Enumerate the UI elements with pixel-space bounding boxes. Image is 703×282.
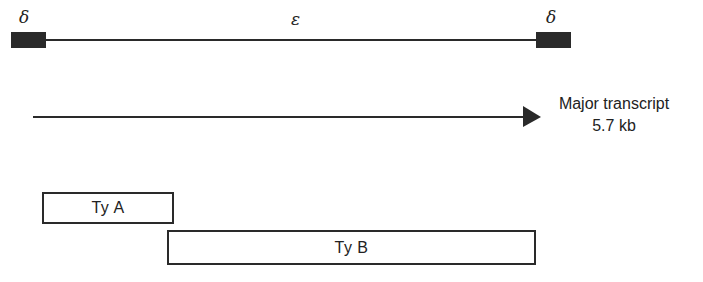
transcript-label: Major transcript 5.7 kb <box>548 93 680 137</box>
orf-ty-a: Ty A <box>42 192 174 224</box>
orf-ty-a-label: Ty A <box>91 199 124 217</box>
transcript-label-name: Major transcript <box>548 93 680 115</box>
orf-ty-b-label: Ty B <box>334 239 368 257</box>
orf-ty-b: Ty B <box>167 230 536 265</box>
transcript-label-size: 5.7 kb <box>548 115 680 137</box>
